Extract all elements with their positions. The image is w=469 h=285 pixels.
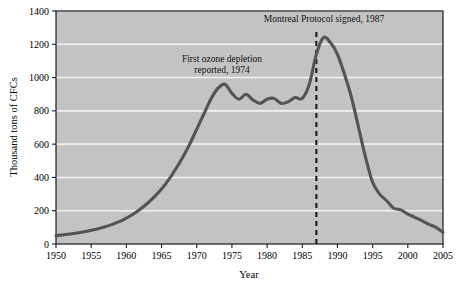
x-tick-label-1965: 1965 (152, 250, 172, 261)
x-tick-label-1960: 1960 (116, 250, 136, 261)
ozone-depletion-note-line-1: First ozone depletion (182, 54, 262, 64)
cfc-production-line-chart: 0200400600800100012001400 19501955196019… (0, 0, 469, 285)
y-tick-label-800: 800 (34, 105, 49, 116)
x-tick-label-1970: 1970 (187, 250, 207, 261)
y-tick-label-400: 400 (34, 172, 49, 183)
y-axis-title: Thousand tons of CFCs (8, 77, 19, 176)
y-tick-label-200: 200 (34, 205, 49, 216)
x-tick-label-1950: 1950 (46, 250, 66, 261)
y-tick-label-1200: 1200 (29, 39, 49, 50)
plot-area-background (56, 11, 443, 244)
x-tick-label-1955: 1955 (81, 250, 101, 261)
x-tick-label-1990: 1990 (327, 250, 347, 261)
chart-figure: 0200400600800100012001400 19501955196019… (0, 0, 469, 285)
y-tick-label-0: 0 (44, 239, 49, 250)
x-axis-title: Year (239, 269, 259, 280)
x-tick-label-2000: 2000 (398, 250, 418, 261)
ozone-depletion-note-line-2: reported, 1974 (194, 65, 250, 75)
x-tick-label-1980: 1980 (257, 250, 277, 261)
x-tick-label-2005: 2005 (433, 250, 453, 261)
x-tick-label-1975: 1975 (222, 250, 242, 261)
montreal-protocol-note-line-1: Montreal Protocol signed, 1987 (264, 14, 385, 24)
y-tick-label-1400: 1400 (29, 6, 49, 17)
y-tick-label-1000: 1000 (29, 72, 49, 83)
y-tick-label-600: 600 (34, 139, 49, 150)
x-tick-label-1985: 1985 (292, 250, 312, 261)
x-tick-label-1995: 1995 (363, 250, 383, 261)
